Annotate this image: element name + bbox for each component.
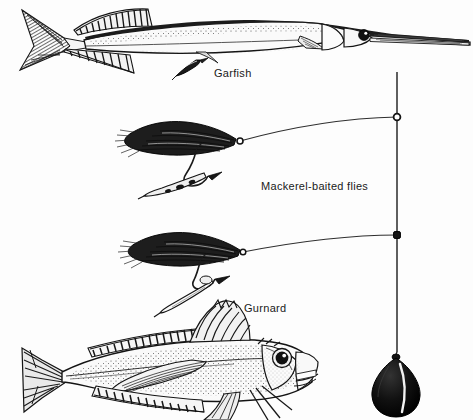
gurnard-spiny-dorsal-fin bbox=[190, 300, 250, 342]
garfish-eye bbox=[359, 30, 370, 41]
garfish-head bbox=[344, 28, 372, 47]
upper-swivel-ring bbox=[394, 114, 401, 121]
lower-fly-bait-strip bbox=[154, 281, 213, 317]
upper-fly-eye-ring bbox=[237, 138, 243, 144]
gurnard-tail-fin bbox=[22, 348, 66, 412]
upper-fly-hook-point bbox=[208, 172, 222, 180]
lower-dropper-line bbox=[243, 235, 397, 252]
upper-dropper-line bbox=[240, 117, 397, 141]
garfish-beak bbox=[370, 33, 469, 45]
lower-fly-hook-point bbox=[215, 276, 230, 284]
garfish-bait-strip bbox=[172, 58, 208, 80]
mackerel-flies-label: Mackerel-baited flies bbox=[261, 180, 368, 192]
lead-weight-group bbox=[372, 352, 420, 417]
illustration-canvas: Garfish Mackerel-baited flies Gurnard bbox=[0, 0, 473, 420]
lower-fly-bait-head bbox=[200, 276, 212, 284]
garfish-anal-fin bbox=[64, 49, 134, 73]
upper-fly-drawing bbox=[115, 121, 236, 199]
lower-fly-eye-ring bbox=[240, 249, 246, 255]
garfish-tail-fin bbox=[20, 10, 86, 70]
garfish-drawing bbox=[20, 9, 470, 73]
gurnard-drawing bbox=[22, 300, 318, 420]
fishing-rig-illustration bbox=[0, 0, 473, 420]
garfish-label: Garfish bbox=[214, 67, 252, 79]
gurnard-label: Gurnard bbox=[244, 302, 286, 314]
lower-swivel-ring bbox=[394, 232, 401, 239]
